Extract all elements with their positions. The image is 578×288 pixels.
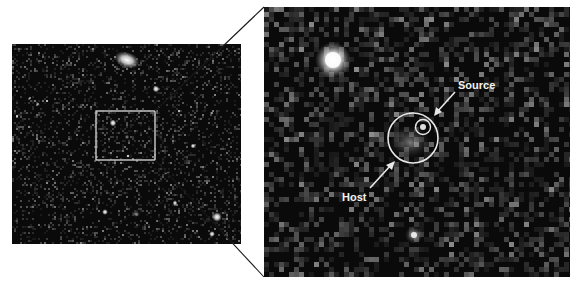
noise-pixel xyxy=(72,82,74,84)
noise-pixel xyxy=(198,134,200,136)
noise-pixel xyxy=(136,182,138,184)
noise-pixel xyxy=(92,124,94,126)
noise-pixel xyxy=(158,216,160,218)
noise-pixel xyxy=(82,174,84,176)
noise-pixel xyxy=(92,198,94,200)
noise-pixel xyxy=(132,74,134,76)
noise-pixel xyxy=(314,107,319,112)
noise-pixel xyxy=(168,208,170,210)
noise-pixel xyxy=(178,200,180,202)
noise-pixel xyxy=(44,58,46,60)
noise-pixel xyxy=(204,210,206,212)
noise-pixel xyxy=(514,142,519,147)
noise-pixel xyxy=(54,72,56,74)
noise-pixel xyxy=(238,108,240,110)
noise-pixel xyxy=(384,177,389,182)
noise-pixel xyxy=(319,142,324,147)
noise-pixel xyxy=(449,202,454,207)
noise-pixel xyxy=(479,252,484,257)
noise-pixel xyxy=(154,44,156,46)
noise-pixel xyxy=(240,164,242,166)
noise-pixel xyxy=(156,130,158,132)
noise-pixel xyxy=(196,98,198,100)
noise-pixel xyxy=(62,142,64,144)
noise-pixel xyxy=(164,208,166,210)
noise-pixel xyxy=(564,72,569,77)
noise-pixel xyxy=(414,62,419,67)
noise-pixel xyxy=(464,107,469,112)
noise-pixel xyxy=(90,74,92,76)
noise-pixel xyxy=(379,167,384,172)
noise-pixel xyxy=(74,232,76,234)
noise-pixel xyxy=(474,187,479,192)
noise-pixel xyxy=(294,237,299,242)
noise-pixel xyxy=(274,47,279,52)
noise-pixel xyxy=(186,76,188,78)
noise-pixel xyxy=(409,57,414,62)
noise-pixel xyxy=(274,247,279,252)
noise-pixel xyxy=(82,154,84,156)
noise-pixel xyxy=(106,172,108,174)
noise-pixel xyxy=(228,200,230,202)
noise-pixel xyxy=(304,102,309,107)
noise-pixel xyxy=(66,214,68,216)
noise-pixel xyxy=(374,257,379,262)
noise-pixel xyxy=(549,217,554,222)
noise-pixel xyxy=(118,190,120,192)
noise-pixel xyxy=(38,174,40,176)
noise-pixel xyxy=(369,152,374,157)
noise-pixel xyxy=(220,192,222,194)
noise-pixel xyxy=(399,242,404,247)
noise-pixel xyxy=(284,162,289,167)
noise-pixel xyxy=(509,82,514,87)
noise-pixel xyxy=(200,198,202,200)
noise-pixel xyxy=(198,118,200,120)
noise-pixel xyxy=(152,170,154,172)
noise-pixel xyxy=(56,126,58,128)
noise-pixel xyxy=(174,50,176,52)
noise-pixel xyxy=(220,92,222,94)
noise-pixel xyxy=(72,74,74,76)
noise-pixel xyxy=(218,158,220,160)
noise-pixel xyxy=(12,154,14,156)
noise-pixel xyxy=(32,166,34,168)
noise-pixel xyxy=(564,12,569,17)
noise-pixel xyxy=(439,157,444,162)
noise-pixel xyxy=(172,118,174,120)
noise-pixel xyxy=(519,7,524,12)
noise-pixel xyxy=(509,267,514,272)
noise-pixel xyxy=(284,197,289,202)
noise-pixel xyxy=(226,212,228,214)
noise-pixel xyxy=(14,204,16,206)
noise-pixel xyxy=(92,86,94,88)
noise-pixel xyxy=(539,247,544,252)
noise-pixel xyxy=(194,214,196,216)
noise-pixel xyxy=(46,96,48,98)
noise-pixel xyxy=(324,187,329,192)
noise-pixel xyxy=(148,126,150,128)
noise-pixel xyxy=(106,190,108,192)
noise-pixel xyxy=(279,27,284,32)
noise-pixel xyxy=(384,202,389,207)
noise-pixel xyxy=(116,156,118,158)
noise-pixel xyxy=(118,142,120,144)
noise-pixel xyxy=(220,154,222,156)
noise-pixel xyxy=(124,108,126,110)
noise-pixel xyxy=(220,166,222,168)
noise-pixel xyxy=(172,80,174,82)
noise-pixel xyxy=(274,217,279,222)
noise-pixel xyxy=(349,157,354,162)
noise-pixel xyxy=(364,72,369,77)
noise-pixel xyxy=(190,124,192,126)
noise-pixel xyxy=(419,182,424,187)
noise-pixel xyxy=(200,102,202,104)
noise-pixel xyxy=(94,86,96,88)
noise-pixel xyxy=(52,144,54,146)
noise-pixel xyxy=(16,48,18,50)
noise-pixel xyxy=(176,54,178,56)
noise-pixel xyxy=(294,247,299,252)
noise-pixel xyxy=(94,98,96,100)
noise-pixel xyxy=(132,124,134,126)
noise-pixel xyxy=(174,224,176,226)
noise-pixel xyxy=(192,230,194,232)
